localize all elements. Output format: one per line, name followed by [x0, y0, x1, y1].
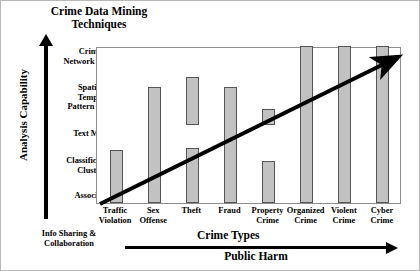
bar-property-crime-seg2: [262, 109, 275, 125]
chart-title: Crime Data Mining Techniques: [15, 5, 183, 31]
bar-violent-crime: [338, 46, 351, 203]
y-axis-arrow: [44, 45, 48, 219]
bar-theft-seg2: [186, 77, 199, 124]
chart-title-line1: Crime Data Mining: [51, 5, 147, 17]
x-tick-line2: Offense: [126, 216, 180, 226]
chart-figure: Crime Data Mining Techniques Analysis Ca…: [0, 0, 420, 271]
chart-title-line2: Techniques: [15, 18, 183, 31]
x-tick-line2: Crime: [355, 216, 409, 226]
x-tick-cyber-crime: CyberCrime: [355, 206, 409, 225]
bar-cyber-crime: [376, 46, 389, 203]
bar-theft-seg1: [186, 148, 199, 203]
bar-organized-crime: [300, 46, 313, 203]
bar-property-crime-seg1: [262, 161, 275, 203]
public-harm-axis-arrow: [125, 246, 387, 249]
y-axis-title: Analysis Capability: [17, 67, 29, 163]
bar-fraud: [224, 87, 237, 203]
bar-traffic-violation: [110, 150, 123, 203]
plot-area: [96, 47, 401, 204]
bottom-left-label-text: Info Sharing & Collaboration: [42, 229, 96, 248]
x-tick-line1: Cyber: [355, 206, 409, 216]
info-sharing-collaboration-label: Info Sharing & Collaboration: [19, 229, 119, 248]
public-harm-label: Public Harm: [151, 250, 361, 262]
bar-series: [97, 48, 400, 203]
bar-sex-offense: [148, 87, 161, 203]
x-axis-title: Crime Types: [197, 229, 260, 241]
